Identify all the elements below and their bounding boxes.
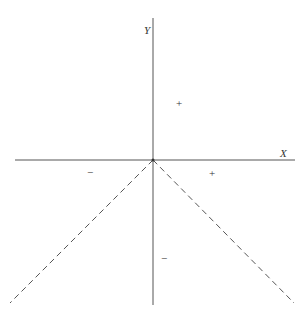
x-axis-label: X [279,147,288,159]
sign-lower-region: − [161,252,167,264]
sign-left-region: − [87,166,93,178]
sign-right-region: + [209,167,215,179]
background [0,0,303,312]
sign-upper-region: + [176,97,182,109]
origin-point [152,159,155,162]
coordinate-diagram: Y X + − + − [0,0,303,312]
